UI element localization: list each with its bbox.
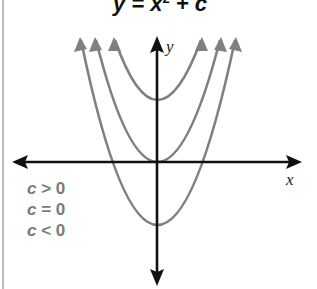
legend-item-c-positive: c > 0 (27, 178, 65, 199)
x-axis-label: x (286, 171, 294, 188)
parabola-graph (0, 0, 317, 289)
arrow-icon (108, 37, 121, 51)
legend-condition: > 0 (36, 179, 65, 198)
arrow-icon (74, 37, 87, 52)
arrow-icon (89, 37, 102, 52)
arrow-icon (214, 37, 227, 52)
legend-item-c-zero: c = 0 (27, 199, 65, 220)
arrow-icon (229, 37, 242, 52)
y-axis-label: y (166, 38, 174, 55)
arrow-icon (195, 37, 208, 51)
legend-condition: < 0 (36, 221, 65, 240)
legend: c > 0 c = 0 c < 0 (27, 178, 65, 241)
legend-item-c-negative: c < 0 (27, 220, 65, 241)
legend-condition: = 0 (36, 200, 65, 219)
